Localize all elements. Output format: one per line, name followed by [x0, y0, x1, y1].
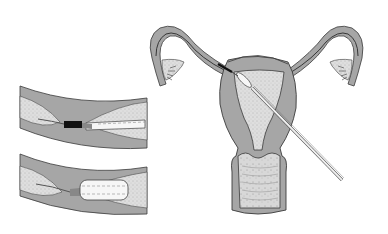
left-fallopian-tube — [150, 26, 228, 86]
inset-bottom-tube-dilated — [20, 154, 147, 215]
left-fimbriae — [162, 59, 184, 80]
uterus-main — [150, 26, 363, 214]
right-fimbriae — [330, 59, 352, 80]
catheter-balloon-inflated — [80, 180, 128, 200]
inset-top-tube-occluded — [20, 86, 147, 149]
diagram-canvas — [0, 0, 388, 234]
occlusion — [64, 121, 82, 128]
right-fallopian-tube — [288, 26, 363, 86]
